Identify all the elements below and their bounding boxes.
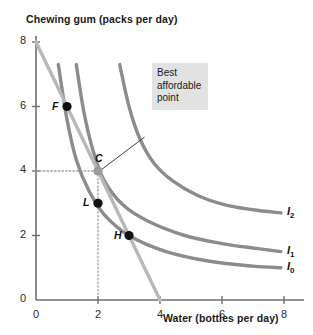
curve-label-subscript: 2 xyxy=(290,211,294,220)
x-tick-label-6: 6 xyxy=(213,308,231,320)
data-point-F xyxy=(62,102,71,111)
x-tick-label-8: 8 xyxy=(275,308,293,320)
callout-line-2: affordable xyxy=(157,80,203,93)
annotation-leader-line xyxy=(102,137,145,169)
data-point-L xyxy=(93,199,102,208)
curve-label-I0: I0 xyxy=(287,260,295,275)
data-point-label-L: L xyxy=(83,196,89,208)
plot-area xyxy=(0,0,313,335)
best-affordable-point-callout: Best affordable point xyxy=(152,63,208,110)
x-tick-label-4: 4 xyxy=(151,308,169,320)
best-affordable-point-leader xyxy=(102,137,145,169)
y-tick-label-6: 6 xyxy=(10,99,26,111)
data-point-label-F: F xyxy=(52,100,58,112)
y-tick-label-2: 2 xyxy=(10,228,26,240)
curve-label-subscript: 1 xyxy=(290,250,294,259)
curve-label-subscript: 0 xyxy=(290,266,294,275)
callout-line-1: Best xyxy=(157,67,203,80)
y-tick-label-4: 4 xyxy=(10,163,26,175)
x-tick-label-2: 2 xyxy=(89,308,107,320)
y-tick-label-0: 0 xyxy=(10,292,26,304)
callout-line-3: point xyxy=(157,92,203,105)
curve-label-I1: I1 xyxy=(287,244,295,259)
data-point-H xyxy=(124,231,133,240)
curve-label-I2: I2 xyxy=(287,205,295,220)
data-point-C xyxy=(93,166,102,175)
data-point-label-C: C xyxy=(95,152,103,164)
data-point-label-H: H xyxy=(114,229,122,241)
chart-figure: Chewing gum (packs per day) Water (bottl… xyxy=(0,0,313,335)
y-tick-label-8: 8 xyxy=(10,34,26,46)
x-tick-label-0: 0 xyxy=(27,308,45,320)
